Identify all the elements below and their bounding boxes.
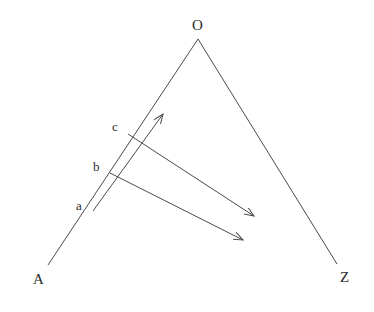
- label-point-a: a: [76, 199, 82, 212]
- label-point-b: b: [93, 160, 100, 173]
- segment-a-to-o: [48, 39, 198, 265]
- arrow-from-b-downright: [110, 173, 243, 240]
- arrow-from-a-upward: [93, 114, 163, 211]
- segment-o-to-z: [198, 39, 337, 264]
- label-point-c: c: [112, 120, 118, 133]
- geometry-diagram: O A Z c b a: [0, 0, 374, 312]
- label-left-end-a: A: [33, 272, 44, 287]
- label-right-end-z: Z: [340, 270, 349, 285]
- arrow-from-c-downright: [128, 134, 254, 216]
- diagram-canvas: [0, 0, 374, 312]
- label-apex-o: O: [192, 18, 203, 33]
